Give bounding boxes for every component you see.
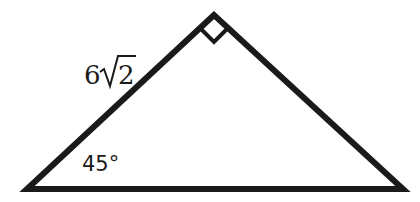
diagram-canvas: 6 2 45° xyxy=(0,0,420,202)
triangle-figure: 6 2 45° xyxy=(0,0,420,202)
side-length-label: 6 2 xyxy=(84,56,136,90)
right-angle-marker xyxy=(200,28,228,42)
angle-label: 45° xyxy=(82,152,119,176)
side-coefficient: 6 xyxy=(84,60,101,90)
side-radicand: 2 xyxy=(118,60,135,90)
